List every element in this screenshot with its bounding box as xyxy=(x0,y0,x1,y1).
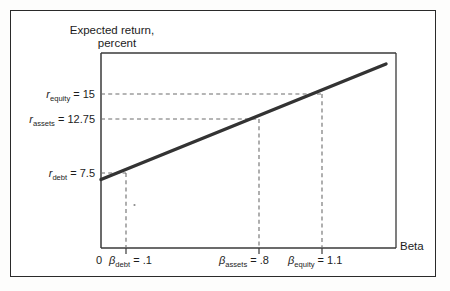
y-tick-equals-requity: = xyxy=(70,88,83,100)
figure-container: Expected return, percent requity = 15 ra… xyxy=(0,0,450,291)
y-tick-value-rassets: 12.75 xyxy=(67,113,95,125)
y-axis-title-line2: percent xyxy=(52,37,172,50)
x-tick-subscript-bdebt: debt xyxy=(115,260,130,269)
x-tick-label-bassets: βassets = .8 xyxy=(219,254,269,266)
x-tick-value-bdebt: .1 xyxy=(143,254,152,266)
x-tick-equals-bdebt: = xyxy=(130,254,143,266)
y-tick-label-rdebt: rdebt = 7.5 xyxy=(49,167,95,179)
y-tick-equals-rassets: = xyxy=(55,113,68,125)
x-tick-equals-bassets: = xyxy=(247,254,260,266)
x-tick-value-bequity: 1.1 xyxy=(327,254,342,266)
y-tick-subscript-rassets: assets xyxy=(33,119,55,128)
x-tick-value-bassets: .8 xyxy=(260,254,269,266)
y-tick-subscript-requity: equity xyxy=(50,94,70,103)
x-axis-title: Beta xyxy=(400,240,424,253)
x-tick-subscript-bequity: equity xyxy=(294,260,314,269)
y-tick-value-rdebt: 7.5 xyxy=(80,167,95,179)
x-tick-equals-bequity: = xyxy=(315,254,328,266)
x-axis-origin-label: 0 xyxy=(96,254,102,266)
y-tick-value-requity: 15 xyxy=(83,88,95,100)
y-tick-label-rassets: rassets = 12.75 xyxy=(29,113,95,125)
x-tick-subscript-bassets: assets xyxy=(225,260,247,269)
y-tick-equals-rdebt: = xyxy=(67,167,80,179)
y-tick-label-requity: requity = 15 xyxy=(46,88,95,100)
x-tick-label-bdebt: βdebt = .1 xyxy=(109,254,152,266)
y-tick-subscript-rdebt: debt xyxy=(52,173,67,182)
security-market-line xyxy=(101,64,386,180)
stray-mark xyxy=(133,204,135,206)
y-axis-title-line1: Expected return, xyxy=(70,24,154,36)
y-axis-title: Expected return, percent xyxy=(52,24,172,50)
x-tick-label-bequity: βequity = 1.1 xyxy=(288,254,342,266)
